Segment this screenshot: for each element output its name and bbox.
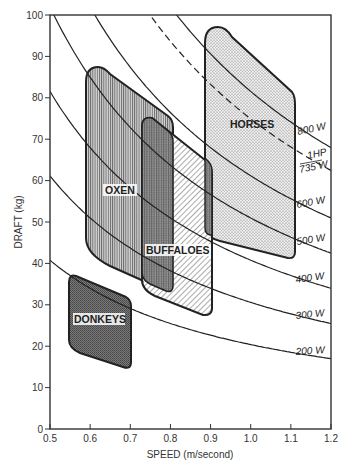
- x-tick-label: 0.9: [204, 433, 218, 444]
- y-tick-label: 40: [32, 258, 44, 269]
- y-tick-label: 60: [32, 175, 44, 186]
- curve-label-300w: 300 W: [295, 307, 326, 321]
- curve-label-735w: 735 W: [298, 158, 330, 175]
- y-tick-label: 20: [32, 341, 44, 352]
- label-oxen: OXEN: [105, 184, 135, 196]
- x-tick-label: 0.8: [163, 433, 177, 444]
- region-buffaloes-horses-overlap: [205, 158, 212, 235]
- curve-label-600w: 600 W: [295, 194, 327, 210]
- draft-speed-chart: 0.50.60.70.80.91.01.11.20102030405060708…: [0, 0, 346, 474]
- y-tick-label: 30: [32, 299, 44, 310]
- curve-label-800w: 800 W: [296, 120, 328, 137]
- y-tick-label: 50: [32, 217, 44, 228]
- y-axis-label: DRAFT (kg): [13, 195, 24, 248]
- curve-labels: 800 W 1HP 735 W 600 W 500 W 400 W 300 W …: [294, 120, 330, 357]
- x-tick-label: 0.6: [83, 433, 97, 444]
- curve-label-400w: 400 W: [295, 270, 327, 285]
- x-tick-label: 0.7: [123, 433, 137, 444]
- x-axis-label: SPEED (m/second): [147, 449, 234, 460]
- label-buffaloes: BUFFALOES: [146, 244, 210, 256]
- y-tick-label: 0: [37, 424, 43, 435]
- y-tick-label: 70: [32, 134, 44, 145]
- y-tick-label: 90: [32, 51, 44, 62]
- label-donkeys: DONKEYS: [74, 313, 126, 325]
- y-tick-label: 100: [26, 10, 43, 21]
- x-tick-label: 0.5: [43, 433, 57, 444]
- y-tick-label: 10: [32, 382, 44, 393]
- x-tick-label: 1.0: [244, 433, 258, 444]
- x-tick-label: 1.1: [284, 433, 298, 444]
- label-horses: HORSES: [230, 118, 274, 130]
- y-tick-label: 80: [32, 92, 44, 103]
- curve-label-500w: 500 W: [296, 231, 328, 247]
- curve-label-200w: 200 W: [294, 344, 326, 357]
- x-tick-label: 1.2: [324, 433, 338, 444]
